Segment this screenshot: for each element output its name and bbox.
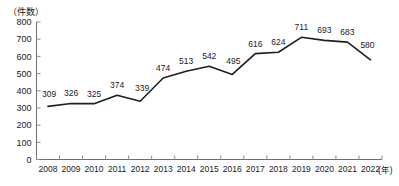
y-tick-label: 300 xyxy=(16,103,31,113)
x-tick-label: 2009 xyxy=(62,164,81,174)
data-point-label: 542 xyxy=(202,51,216,61)
y-tick-label: 400 xyxy=(16,86,31,96)
x-axis-unit-label: (年) xyxy=(378,165,393,175)
x-tick-label: 2016 xyxy=(223,164,242,174)
data-point-labels: 3093263253743394745135424956166247116936… xyxy=(42,22,375,99)
data-point-label: 683 xyxy=(340,27,354,37)
data-point-label: 374 xyxy=(110,80,124,90)
y-tick-label: 500 xyxy=(16,69,31,79)
y-axis-unit-label: （件数） xyxy=(8,6,44,17)
data-point-label: 616 xyxy=(248,39,262,49)
x-axis-ticks xyxy=(37,156,383,160)
x-axis-tick-labels: 2008200920102011201220132014201520162017… xyxy=(39,164,381,174)
x-tick-label: 2018 xyxy=(269,164,288,174)
x-tick-label: 2008 xyxy=(39,164,58,174)
y-tick-label: 700 xyxy=(16,34,31,44)
data-point-label: 580 xyxy=(360,40,374,50)
y-tick-label: 600 xyxy=(16,52,31,62)
data-point-label: 513 xyxy=(179,56,193,66)
y-tick-label: 200 xyxy=(16,120,31,130)
x-tick-label: 2017 xyxy=(246,164,265,174)
data-point-label: 624 xyxy=(271,37,285,47)
y-tick-label: 0 xyxy=(26,155,31,165)
x-tick-label: 2011 xyxy=(108,164,127,174)
chart-canvas: （件数） 8007006005004003002001000 200820092… xyxy=(0,0,399,186)
x-tick-label: 2015 xyxy=(200,164,219,174)
x-tick-label: 2014 xyxy=(177,164,196,174)
data-point-label: 495 xyxy=(226,56,240,66)
data-point-label: 711 xyxy=(295,22,309,32)
x-tick-label: 2021 xyxy=(338,164,357,174)
data-point-label: 693 xyxy=(317,25,331,35)
line-chart: （件数） 8007006005004003002001000 200820092… xyxy=(0,0,399,186)
x-tick-label: 2019 xyxy=(292,164,311,174)
y-tick-label: 100 xyxy=(16,138,31,148)
x-tick-label: 2010 xyxy=(85,164,104,174)
x-tick-label: 2020 xyxy=(315,164,334,174)
y-tick-label: 800 xyxy=(16,17,31,27)
y-axis-tick-labels: 8007006005004003002001000 xyxy=(16,17,31,165)
x-tick-label: 2013 xyxy=(154,164,173,174)
x-tick-label: 2012 xyxy=(131,164,150,174)
data-point-label: 326 xyxy=(64,88,78,98)
data-point-label: 339 xyxy=(135,83,149,93)
data-point-label: 309 xyxy=(42,89,56,99)
data-point-label: 474 xyxy=(156,63,170,73)
y-axis-ticks xyxy=(37,22,41,160)
data-point-label: 325 xyxy=(87,89,101,99)
